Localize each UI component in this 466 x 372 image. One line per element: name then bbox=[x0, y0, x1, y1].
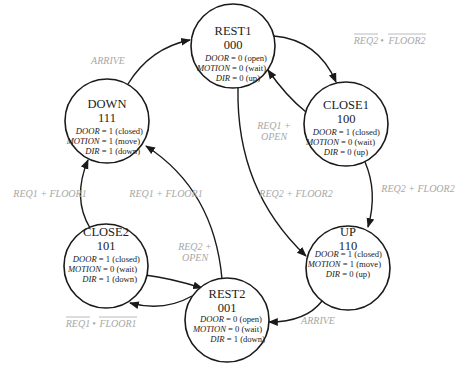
state-down: DOWN 111 DOOR = 1 (closed) MOTION = 1 (m… bbox=[65, 79, 149, 163]
state-up: UP 110 DOOR = 1 (closed) MOTION = 1 (mov… bbox=[306, 225, 390, 310]
label-close2-rest2-line1: REQ2 + bbox=[177, 241, 212, 252]
output-dir: DIR = 1 (down) bbox=[84, 146, 140, 156]
state-rest2: REST2 001 DOOR = 0 (open) MOTION = 0 (wa… bbox=[185, 278, 269, 362]
output-door: DOOR = 0 (open) bbox=[199, 314, 262, 324]
output-door: DOOR = 1 (closed) bbox=[312, 127, 380, 137]
state-close1: CLOSE1 100 DOOR = 1 (closed) MOTION = 0 … bbox=[304, 82, 388, 166]
label-close2-down: REQ1 + FLOOR1 bbox=[12, 188, 86, 199]
edge-rest1-to-close1 bbox=[274, 36, 336, 82]
label-down-rest1: ARRIVE bbox=[90, 55, 125, 66]
state-name: DOWN bbox=[88, 97, 127, 111]
state-name: REST2 bbox=[209, 287, 246, 301]
output-dir: DIR = 0 (up) bbox=[323, 147, 368, 157]
state-code: 000 bbox=[224, 38, 243, 52]
state-code: 101 bbox=[97, 239, 116, 253]
label-rest2-down: REQ1 + FLOOR1 bbox=[128, 188, 202, 199]
svg-text:FLOOR2: FLOOR2 bbox=[387, 35, 425, 46]
output-motion: MOTION = 0 (wait) bbox=[67, 264, 137, 274]
state-name: UP bbox=[340, 225, 356, 239]
label-close1-rest1-line1: REQ1 + bbox=[256, 120, 291, 131]
output-door: DOOR = 0 (open) bbox=[204, 53, 267, 63]
svg-text:FLOOR1: FLOOR1 bbox=[98, 318, 136, 329]
state-diagram: REST1 000 DOOR = 0 (open) MOTION = 0 (wa… bbox=[0, 0, 466, 372]
svg-text:REQ1: REQ1 bbox=[65, 318, 90, 329]
state-code: 111 bbox=[98, 111, 116, 125]
label-close1-rest1-line2: OPEN bbox=[261, 131, 288, 142]
label-close2-rest2-line2: OPEN bbox=[182, 252, 209, 263]
svg-text:•: • bbox=[380, 35, 384, 46]
state-close2: CLOSE2 101 DOOR = 1 (closed) MOTION = 0 … bbox=[64, 224, 148, 308]
output-door: DOOR = 1 (closed) bbox=[314, 249, 382, 259]
svg-text:•: • bbox=[92, 318, 96, 329]
edge-close1-to-up bbox=[365, 162, 372, 227]
label-rest1-up: REQ2 + FLOOR2 bbox=[258, 188, 332, 199]
label-rest1-close1: REQ2 • FLOOR2 bbox=[353, 34, 426, 46]
edge-close2-to-rest2 bbox=[145, 275, 202, 288]
output-dir: DIR = 0 (up) bbox=[325, 269, 370, 279]
edge-down-to-rest1 bbox=[128, 40, 190, 84]
edge-close1-to-rest1 bbox=[268, 70, 306, 112]
output-dir: DIR = 0 (up) bbox=[215, 73, 260, 83]
output-motion: MOTION = 0 (wait) bbox=[305, 137, 375, 147]
edge-rest1-to-up bbox=[238, 88, 306, 256]
state-name: CLOSE1 bbox=[323, 98, 369, 112]
label-rest2-close2: REQ1 • FLOOR1 bbox=[65, 317, 137, 329]
output-dir: DIR = 1 (down) bbox=[209, 334, 265, 344]
state-code: 001 bbox=[218, 301, 237, 315]
state-name: REST1 bbox=[215, 24, 252, 38]
state-name: CLOSE2 bbox=[83, 225, 129, 239]
output-dir: DIR = 1 (down) bbox=[81, 274, 137, 284]
state-rest1: REST1 000 DOOR = 0 (open) MOTION = 0 (wa… bbox=[191, 4, 275, 88]
output-door: DOOR = 1 (closed) bbox=[75, 126, 143, 136]
state-code: 100 bbox=[337, 112, 356, 126]
label-up-rest2: ARRIVE bbox=[300, 315, 335, 326]
svg-text:REQ2: REQ2 bbox=[353, 35, 378, 46]
output-motion: MOTION = 0 (wait) bbox=[192, 324, 262, 334]
output-door: DOOR = 1 (closed) bbox=[72, 254, 140, 264]
label-close1-up: REQ2 + FLOOR2 bbox=[380, 183, 454, 194]
output-motion: MOTION = 1 (move) bbox=[307, 259, 381, 269]
edge-rest2-to-close2 bbox=[130, 296, 192, 306]
output-motion: MOTION = 0 (wait) bbox=[196, 63, 266, 73]
output-motion: MOTION = 1 (move) bbox=[66, 136, 140, 146]
